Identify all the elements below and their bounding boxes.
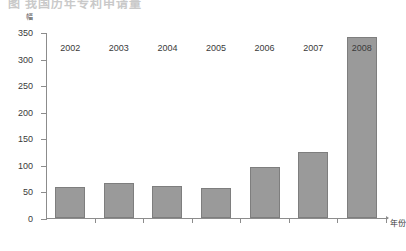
figure-title-text: 图 我国历年专利申请量 <box>8 0 142 9</box>
x-axis-tick-label: 2008 <box>352 43 372 239</box>
y-axis-line <box>46 33 47 219</box>
x-axis-tick-label: 2006 <box>255 43 275 239</box>
y-axis-tick: 100 <box>41 166 47 167</box>
x-axis-tick <box>192 219 193 223</box>
y-axis-tick-label: 250 <box>18 81 33 91</box>
y-axis-tick-label: 150 <box>18 134 33 144</box>
x-axis-tick-label: 2005 <box>206 43 226 239</box>
x-axis-tick-label: 2007 <box>303 43 323 239</box>
x-axis-tick-label: 2002 <box>60 43 80 239</box>
y-axis-tick: 250 <box>41 86 47 87</box>
plot-area: 年份 0501001502002503003502002200320042005… <box>46 33 376 219</box>
cropped-figure-title: 图 我国历年专利申请量 <box>0 0 401 9</box>
y-axis-tick-label: 300 <box>18 55 33 65</box>
x-axis-tick-label: 2003 <box>109 43 129 239</box>
x-axis-title: 年份 <box>390 217 406 228</box>
x-axis-tick <box>386 219 387 223</box>
y-axis-tick: 0 <box>41 219 47 220</box>
y-axis-tick: 150 <box>41 139 47 140</box>
y-axis-tick-label: 50 <box>23 187 33 197</box>
y-axis-tick-label: 0 <box>28 214 33 224</box>
x-axis-tick-label: 2004 <box>157 43 177 239</box>
y-axis-tick-label: 200 <box>18 108 33 118</box>
y-axis-tick: 200 <box>41 113 47 114</box>
y-axis-tick: 50 <box>41 192 47 193</box>
x-axis-tick <box>240 219 241 223</box>
y-axis-tick: 350 <box>41 33 47 34</box>
x-axis-tick <box>289 219 290 223</box>
y-axis-tick-label: 350 <box>18 28 33 38</box>
x-axis-tick <box>143 219 144 223</box>
y-axis-unit-label: 幅 <box>26 11 33 21</box>
x-axis-arrow-icon <box>382 218 388 219</box>
y-axis-tick-label: 100 <box>18 161 33 171</box>
x-axis-tick <box>337 219 338 223</box>
y-axis-tick: 300 <box>41 60 47 61</box>
x-axis-tick <box>95 219 96 223</box>
